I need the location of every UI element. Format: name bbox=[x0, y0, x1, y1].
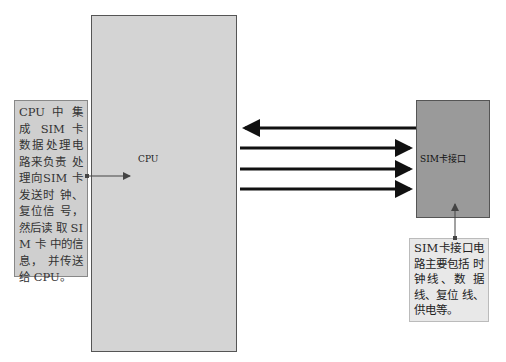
connection-arrows bbox=[0, 0, 506, 362]
